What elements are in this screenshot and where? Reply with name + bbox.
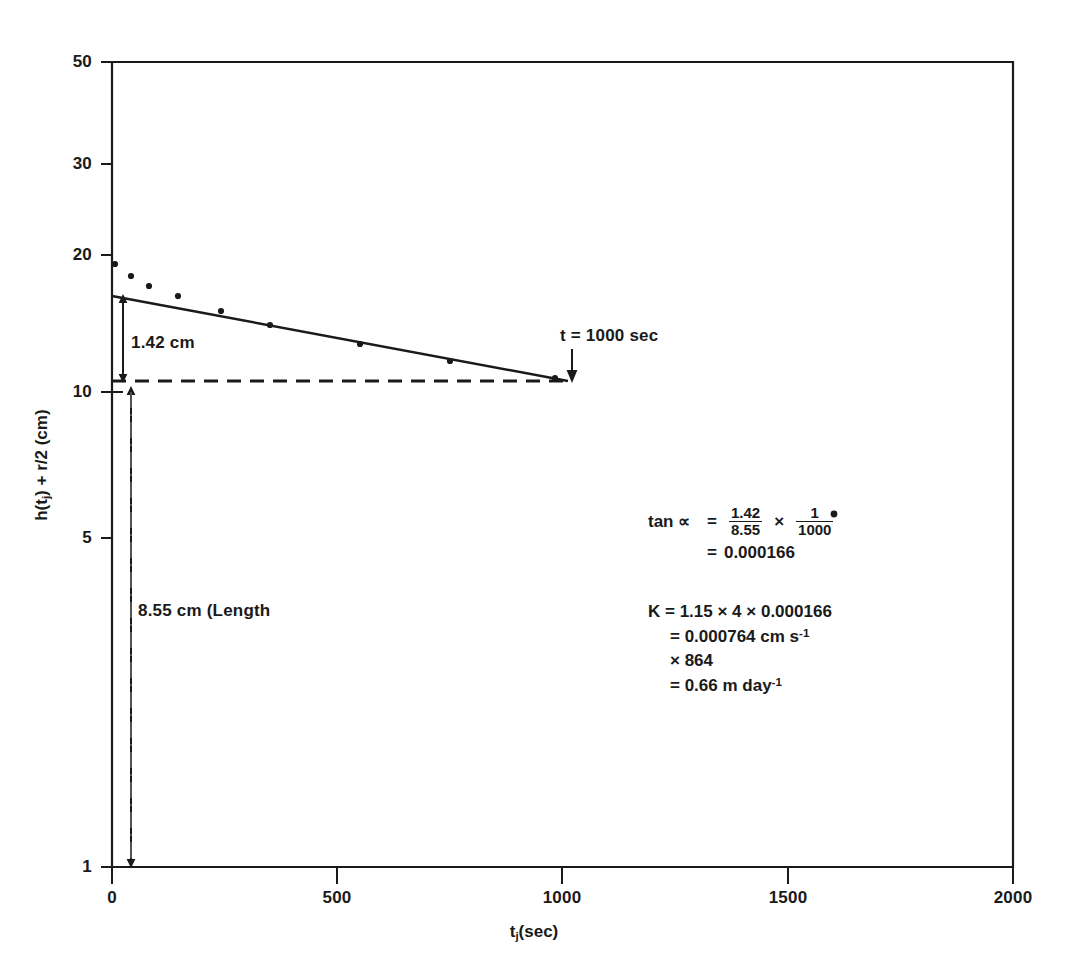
k-line-2-exponent: -1 <box>799 627 809 639</box>
figure-container: 50 30 20 10 5 1 0 500 1000 1500 2000 h(t… <box>0 0 1068 977</box>
y-tick-label-50: 50 <box>52 52 92 72</box>
drop-measure-arrow <box>119 294 128 383</box>
annotation-time-marker: t = 1000 sec <box>560 326 658 346</box>
tan-alpha-equation-row: tan ∝ = 1.42 8.55 × 1 1000 <box>648 505 838 538</box>
fraction-denominator: 8.55 <box>729 521 762 538</box>
time-marker-arrow <box>567 349 578 383</box>
data-point <box>146 283 152 289</box>
annotation-drop-label: 1.42 cm <box>131 333 195 353</box>
length-measure-arrow <box>127 386 136 868</box>
y-axis-title: h(tj) + r/2 (cm) <box>32 365 52 565</box>
fraction-1-over-1000: 1 1000 <box>796 505 833 538</box>
data-point <box>175 293 181 299</box>
calculation-tan-alpha: tan ∝ = 1.42 8.55 × 1 1000 = 0.000166 <box>648 505 838 563</box>
y-tick-label-1: 1 <box>52 857 92 877</box>
x-tick-label-2000: 2000 <box>978 888 1048 908</box>
k-line-2-text: = 0.000764 cm s <box>670 627 799 646</box>
x-axis-title: tj(sec) <box>0 922 1068 942</box>
x-tick-label-0: 0 <box>77 888 147 908</box>
times-sign: × <box>774 513 784 530</box>
k-line-3: × 864 <box>648 649 832 674</box>
y-tick-label-5: 5 <box>52 528 92 548</box>
plot-frame <box>112 62 1013 867</box>
data-point <box>112 261 118 267</box>
x-tick-label-1500: 1500 <box>753 888 823 908</box>
y-tick-label-20: 20 <box>52 245 92 265</box>
result-equals-sign: = <box>707 544 717 561</box>
tan-alpha-lhs: tan ∝ <box>648 513 700 530</box>
x-tick-label-500: 500 <box>302 888 372 908</box>
fraction-1-42-over-8-55: 1.42 8.55 <box>729 505 762 538</box>
fraction-numerator: 1 <box>809 505 821 521</box>
tan-alpha-result-row: = 0.000166 <box>648 544 838 561</box>
y-tick-label-30: 30 <box>52 154 92 174</box>
data-point <box>552 375 558 381</box>
k-line-4-exponent: -1 <box>772 676 782 688</box>
data-point <box>218 308 224 314</box>
data-point <box>447 358 453 364</box>
data-point <box>357 341 363 347</box>
data-point <box>128 273 134 279</box>
fraction-denominator: 1000 <box>796 521 833 538</box>
chart-canvas <box>0 0 1068 977</box>
x-tick-label-1000: 1000 <box>527 888 597 908</box>
k-line-4: = 0.66 m day-1 <box>648 674 832 699</box>
annotation-length-label: 8.55 cm (Length <box>138 601 270 621</box>
calculation-k-value: K = 1.15 × 4 × 0.000166 = 0.000764 cm s-… <box>648 600 832 699</box>
fraction-numerator: 1.42 <box>729 505 762 521</box>
equals-sign: = <box>707 513 717 530</box>
k-line-4-text: = 0.66 m day <box>670 676 772 695</box>
data-points <box>112 261 837 518</box>
k-line-2: = 0.000764 cm s-1 <box>648 625 832 650</box>
x-axis-ticks <box>112 867 1013 884</box>
data-point <box>267 322 273 328</box>
k-line-1: K = 1.15 × 4 × 0.000166 <box>648 600 832 625</box>
tan-alpha-result: 0.000166 <box>724 544 795 561</box>
y-tick-label-10: 10 <box>52 382 92 402</box>
k-line-3-text: × 864 <box>670 651 713 670</box>
